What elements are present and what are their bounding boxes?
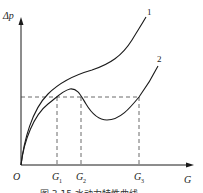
hydrodynamic-characteristic-diagram: Δp G O 1 2 G 1 G 2 G 3 图 3.15 水动力特性曲线 — [0, 0, 203, 193]
axes — [19, 17, 195, 168]
x-axis-label: G — [184, 174, 191, 185]
svg-text:2: 2 — [83, 178, 86, 184]
svg-text:1: 1 — [59, 178, 62, 184]
curve-2 — [21, 66, 158, 165]
curve-1 — [21, 17, 146, 165]
curve-1-label: 1 — [147, 7, 152, 17]
figure-caption: 图 3.15 水动力特性曲线 — [40, 188, 138, 193]
g3-label: G 3 — [134, 171, 144, 184]
g1-label: G 1 — [52, 171, 62, 184]
x-axis-arrow-icon — [186, 163, 194, 168]
origin-label: O — [13, 171, 20, 182]
g2-label: G 2 — [76, 171, 86, 184]
curve-2-label: 2 — [157, 54, 162, 64]
y-axis-label: Δp — [2, 10, 14, 21]
svg-text:3: 3 — [141, 178, 144, 184]
y-axis-arrow-icon — [19, 17, 24, 25]
